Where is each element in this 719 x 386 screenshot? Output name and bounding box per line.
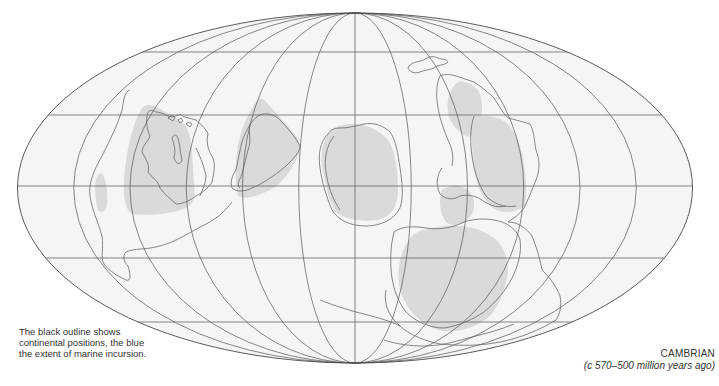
era-range: (c 570–500 million years ago) [584,360,715,372]
era-title: CAMBRIAN [584,348,715,360]
era-label: CAMBRIAN (c 570–500 million years ago) [584,348,715,372]
legend-note: The black outline shows continental posi… [19,326,159,359]
incursion-siberia [322,124,399,221]
